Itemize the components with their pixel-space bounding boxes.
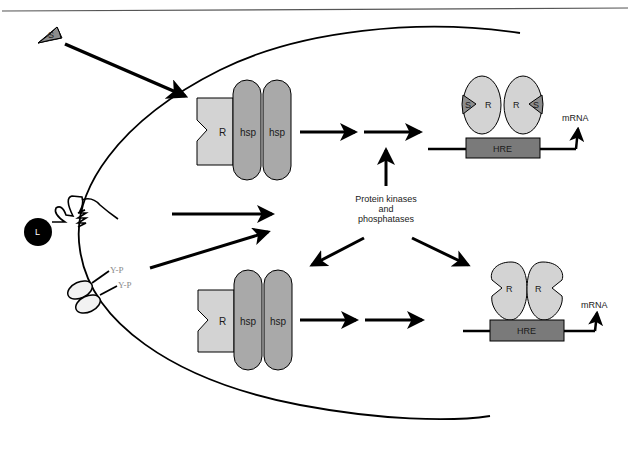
- svg-text:and: and: [378, 204, 393, 214]
- svg-text:Protein kinases: Protein kinases: [355, 194, 417, 204]
- cell-membrane: [79, 27, 520, 419]
- top-receptor-label: R: [219, 127, 226, 138]
- steroid-molecule: S: [38, 27, 62, 43]
- bottom-hsp-1-label: hsp: [240, 316, 257, 327]
- yp-label-1: Y-P: [110, 265, 124, 275]
- kinases-label: Protein kinases and phosphatases: [355, 194, 417, 224]
- bottom-mrna-label: mRNA: [581, 300, 608, 310]
- bottom-receptor-hsp-complex: R hsp hsp: [198, 270, 292, 370]
- svg-text:S: S: [465, 100, 471, 110]
- membrane-receptor: L: [24, 196, 118, 246]
- top-hsp-1-label: hsp: [240, 127, 257, 138]
- bottom-mrna-arrow: [595, 313, 597, 331]
- svg-text:R: R: [513, 100, 520, 110]
- yp-label-2: Y-P: [118, 280, 132, 290]
- svg-text:R: R: [535, 284, 542, 294]
- bottom-hre-label: HRE: [517, 326, 536, 336]
- diagram-canvas: S R hsp hsp S R R S HRE mRNA L: [0, 0, 631, 451]
- top-receptor-dimer: S R R S HRE mRNA: [428, 76, 589, 158]
- top-rule: [2, 8, 628, 11]
- arrow-kinases-down-right: [412, 238, 468, 265]
- top-hsp-2-label: hsp: [269, 127, 286, 138]
- top-hre-label: HRE: [493, 144, 512, 154]
- steroid-label: S: [48, 30, 54, 40]
- top-mrna-label: mRNA: [562, 113, 589, 123]
- bottom-receptor-dimer: R R HRE mRNA: [463, 262, 608, 341]
- svg-text:R: R: [485, 100, 492, 110]
- svg-text:S: S: [533, 100, 539, 110]
- arrow-steroid-entry: [65, 44, 185, 96]
- arrow-kinases-down-left: [312, 238, 364, 265]
- svg-text:phosphatases: phosphatases: [358, 214, 415, 224]
- bottom-receptor-label: R: [219, 316, 226, 327]
- arrow-yp-signal: [150, 232, 268, 268]
- top-mrna-arrow: [576, 129, 578, 149]
- svg-text:R: R: [506, 284, 513, 294]
- bottom-hsp-2-label: hsp: [270, 316, 287, 327]
- ligand-label: L: [35, 227, 40, 237]
- top-receptor-hsp-complex: R hsp hsp: [197, 80, 291, 180]
- phosphorylated-receptor: Y-P Y-P: [65, 265, 132, 317]
